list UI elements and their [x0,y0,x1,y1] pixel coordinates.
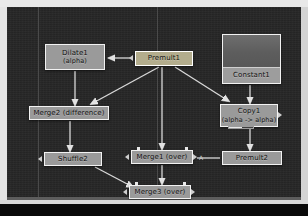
node-dilate1[interactable]: Dilate1 (alpha) [45,44,105,70]
node-merge3-input-port[interactable] [123,189,127,195]
node-dilate1-subtitle: (alpha) [63,57,87,65]
window-top-border [0,0,308,7]
node-merge3-nub-left [135,182,138,185]
node-merge1-title: Merge1 (over) [137,153,188,162]
node-shuffle2-input-port[interactable] [38,156,42,162]
node-merge3-output-port[interactable] [191,189,195,195]
node-shuffle2-title: Shuffle2 [58,155,88,164]
node-merge1-nub-right [185,147,188,150]
node-merge3-nub-right [183,182,186,185]
node-constant1-thumbnail [223,35,280,68]
node-shuffle2[interactable]: Shuffle2 [44,152,102,166]
node-copy1-subtitle: (alpha -> alpha) [222,116,277,124]
node-constant1-title: Constant1 [223,68,280,83]
node-merge1-nub-left [137,147,140,150]
dag-canvas[interactable]: Dilate1 (alpha) Premult1 Constant1 Merge… [7,7,301,200]
node-copy1-channel-bar [228,126,254,129]
wire-premult1-merge2 [93,67,159,103]
node-premult2-title: Premult2 [236,154,268,163]
wire-premult1-copy1 [175,67,227,100]
node-merge2-title: Merge2 (difference) [33,109,104,118]
node-merge3-title: Merge3 (over) [135,188,186,197]
node-merge1-a-port-label: A [199,154,203,161]
node-copy1[interactable]: Copy1 (alpha -> alpha) [220,104,278,127]
node-merge1-input-port[interactable] [125,154,129,160]
node-merge1[interactable]: Merge1 (over) [131,150,193,164]
node-merge1-a-port-arrow[interactable] [193,154,197,160]
wire-shuffle2-merge3 [95,167,131,186]
node-copy1-output-port[interactable] [278,112,282,118]
node-dilate1-title: Dilate1 [62,49,88,58]
node-premult1-title: Premult1 [148,54,180,63]
node-graph-window: Dilate1 (alpha) Premult1 Constant1 Merge… [0,0,308,216]
node-premult2[interactable]: Premult2 [222,151,282,165]
window-outer-band [0,204,308,216]
node-copy1-title: Copy1 [238,107,261,116]
node-premult1[interactable]: Premult1 [135,51,193,66]
node-constant1[interactable]: Constant1 [222,34,281,84]
window-right-border [301,7,308,200]
window-left-border [0,7,7,200]
node-premult1-input-port[interactable] [129,55,133,61]
node-merge3[interactable]: Merge3 (over) [129,185,191,199]
node-merge2[interactable]: Merge2 (difference) [29,106,109,120]
